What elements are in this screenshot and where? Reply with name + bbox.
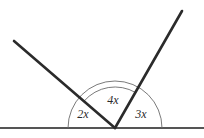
angle-label-2x: 2x — [77, 107, 89, 121]
angle-diagram-figure: 2x 4x 3x — [0, 0, 204, 138]
right-ray — [115, 11, 182, 128]
angle-label-3x: 3x — [134, 107, 147, 121]
diagram-canvas: 2x 4x 3x — [0, 0, 204, 138]
angle-label-4x: 4x — [107, 93, 119, 107]
left-ray — [14, 41, 115, 128]
